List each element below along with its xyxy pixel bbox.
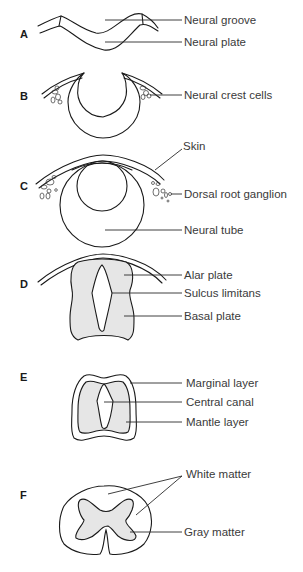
panel-d: D Alar plate Sulcus limitans Basal plate bbox=[20, 254, 261, 340]
neural-fold-shape bbox=[68, 73, 140, 138]
panel-f: F White matter Gray matter bbox=[20, 468, 251, 555]
panel-letter-a: A bbox=[20, 28, 28, 40]
label-neural-plate: Neural plate bbox=[184, 36, 246, 48]
neural-development-figure: A Neural groove Neural plate B bbox=[0, 0, 303, 572]
label-neural-tube: Neural tube bbox=[184, 224, 243, 236]
dorsal-root-ganglion-right bbox=[152, 182, 172, 203]
panel-c: C Skin Dorsa bbox=[20, 140, 287, 247]
panel-letter-f: F bbox=[20, 489, 27, 501]
neural-plate-shape bbox=[38, 14, 158, 51]
neural-tube-outer bbox=[60, 163, 144, 247]
skin-outer bbox=[36, 155, 164, 184]
figure-canvas: A Neural groove Neural plate B bbox=[0, 0, 303, 572]
panel-letter-e: E bbox=[20, 371, 27, 383]
label-skin: Skin bbox=[183, 140, 205, 152]
label-white-matter: White matter bbox=[186, 468, 251, 480]
panel-b: B Neural crest cells bbox=[20, 73, 272, 138]
label-marginal-layer: Marginal layer bbox=[186, 377, 258, 389]
panel-letter-b: B bbox=[20, 90, 28, 102]
panel-letter-d: D bbox=[20, 278, 28, 290]
label-basal-plate: Basal plate bbox=[184, 310, 241, 322]
label-mantle-layer: Mantle layer bbox=[186, 416, 249, 428]
label-neural-crest-cells: Neural crest cells bbox=[184, 89, 272, 101]
panel-a: A Neural groove Neural plate bbox=[20, 14, 256, 51]
label-sulcus-limitans: Sulcus limitans bbox=[184, 287, 261, 299]
label-gray-matter: Gray matter bbox=[184, 526, 245, 538]
label-neural-groove: Neural groove bbox=[184, 14, 256, 26]
panel-letter-c: C bbox=[20, 180, 28, 192]
neural-tube-lumen bbox=[77, 161, 127, 211]
leader-skin bbox=[155, 149, 182, 170]
ectoderm-right bbox=[122, 73, 162, 94]
label-alar-plate: Alar plate bbox=[184, 269, 233, 281]
label-central-canal: Central canal bbox=[186, 396, 254, 408]
panel-e: E Marginal layer Central canal Mantle la… bbox=[20, 371, 258, 440]
label-dorsal-root-ganglion: Dorsal root ganglion bbox=[184, 188, 287, 200]
